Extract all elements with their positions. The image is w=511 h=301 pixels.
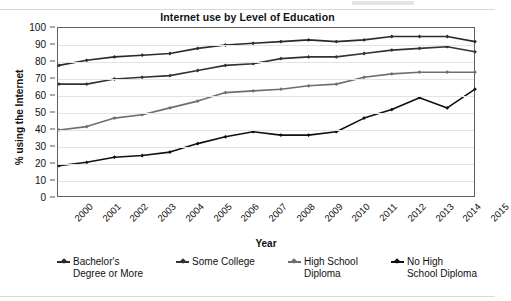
y-tick-label-70: 70 <box>35 73 46 84</box>
data-point-marker <box>473 40 477 44</box>
data-point-marker <box>113 116 117 120</box>
data-point-marker <box>334 82 338 86</box>
legend-item-4[interactable]: No High School Diploma <box>391 256 477 280</box>
series-line <box>59 89 475 166</box>
data-point-marker <box>168 74 172 78</box>
gridline-70 <box>58 79 474 80</box>
data-point-marker <box>445 35 449 39</box>
data-point-marker <box>418 35 422 39</box>
y-tick-label-50: 50 <box>35 107 46 118</box>
gridline-20 <box>58 164 474 165</box>
data-point-marker <box>390 48 394 52</box>
chart-legend: Bachelor's Degree or MoreSome CollegeHig… <box>57 256 477 296</box>
series-4 <box>57 87 477 167</box>
y-tick-label-90: 90 <box>35 39 46 50</box>
legend-marker-icon <box>176 256 189 268</box>
data-point-marker <box>279 40 283 44</box>
data-point-marker <box>390 35 394 39</box>
data-point-marker <box>362 38 366 42</box>
data-point-marker <box>473 50 477 54</box>
y-tick-mark-100 <box>50 27 55 28</box>
data-point-marker <box>196 142 200 146</box>
page-bottom-rule <box>0 296 495 297</box>
legend-marker-icon <box>57 256 70 268</box>
data-point-marker <box>473 70 477 74</box>
y-axis-title: % using the Internet <box>14 43 25 193</box>
gridline-50 <box>58 113 474 114</box>
gridline-30 <box>58 147 474 148</box>
data-point-marker <box>196 99 200 103</box>
data-point-marker <box>334 55 338 59</box>
data-point-marker <box>196 47 200 51</box>
data-point-marker <box>85 82 89 86</box>
x-tick-label-2009: 2009 <box>322 201 345 224</box>
y-tick-label-40: 40 <box>35 124 46 135</box>
y-tick-mark-30 <box>50 146 55 147</box>
y-tick-label-30: 30 <box>35 141 46 152</box>
data-point-marker <box>168 52 172 56</box>
data-point-marker <box>113 55 117 59</box>
x-tick-label-2005: 2005 <box>211 201 234 224</box>
data-point-marker <box>279 87 283 91</box>
x-tick-label-2012: 2012 <box>405 201 428 224</box>
y-tick-mark-50 <box>50 112 55 113</box>
data-point-marker <box>418 70 422 74</box>
data-point-marker <box>307 84 311 88</box>
y-tick-label-60: 60 <box>35 90 46 101</box>
y-tick-mark-60 <box>50 95 55 96</box>
data-point-marker <box>113 155 117 159</box>
x-tick-label-2008: 2008 <box>294 201 317 224</box>
y-tick-mark-70 <box>50 78 55 79</box>
x-tick-label-2014: 2014 <box>460 201 483 224</box>
data-point-marker <box>224 64 228 68</box>
data-point-marker <box>140 53 144 57</box>
data-point-marker <box>196 69 200 73</box>
x-tick-label-2010: 2010 <box>350 201 373 224</box>
legend-marker-icon <box>288 256 301 268</box>
y-axis: 1009080706050403020100 <box>0 27 55 197</box>
data-point-marker <box>307 55 311 59</box>
gridline-10 <box>58 181 474 182</box>
data-point-marker <box>362 52 366 56</box>
gridline-90 <box>58 45 474 46</box>
data-point-marker <box>251 89 255 93</box>
data-point-marker <box>168 106 172 110</box>
x-tick-label-2015: 2015 <box>488 201 511 224</box>
data-point-marker <box>279 57 283 61</box>
x-tick-label-2004: 2004 <box>183 201 206 224</box>
legend-item-2[interactable]: Some College <box>176 256 255 268</box>
legend-label: High School Diploma <box>304 256 358 280</box>
y-tick-mark-0 <box>50 197 55 198</box>
legend-item-1[interactable]: Bachelor's Degree or More <box>57 256 143 280</box>
legend-label: Some College <box>192 256 255 268</box>
x-tick-label-2001: 2001 <box>100 201 123 224</box>
data-point-marker <box>307 133 311 137</box>
y-tick-mark-40 <box>50 129 55 130</box>
x-tick-label-2000: 2000 <box>72 201 95 224</box>
y-tick-mark-10 <box>50 180 55 181</box>
data-point-marker <box>224 91 228 95</box>
data-point-marker <box>57 82 61 86</box>
x-tick-label-2003: 2003 <box>155 201 178 224</box>
data-point-marker <box>279 133 283 137</box>
data-point-marker <box>85 125 89 129</box>
data-point-marker <box>445 70 449 74</box>
y-tick-label-20: 20 <box>35 158 46 169</box>
y-tick-label-100: 100 <box>29 22 46 33</box>
y-tick-label-80: 80 <box>35 56 46 67</box>
legend-label: Bachelor's Degree or More <box>73 256 143 280</box>
legend-item-3[interactable]: High School Diploma <box>288 256 358 280</box>
x-tick-label-2002: 2002 <box>128 201 151 224</box>
data-point-marker <box>418 47 422 51</box>
legend-marker-icon <box>391 256 404 268</box>
legend-label: No High School Diploma <box>407 256 477 280</box>
chart-title: Internet use by Level of Education <box>0 11 495 23</box>
y-tick-mark-80 <box>50 61 55 62</box>
data-point-marker <box>307 38 311 42</box>
data-point-marker <box>168 150 172 154</box>
gridline-40 <box>58 130 474 131</box>
data-point-marker <box>224 135 228 139</box>
y-tick-mark-20 <box>50 163 55 164</box>
data-point-marker <box>334 40 338 44</box>
